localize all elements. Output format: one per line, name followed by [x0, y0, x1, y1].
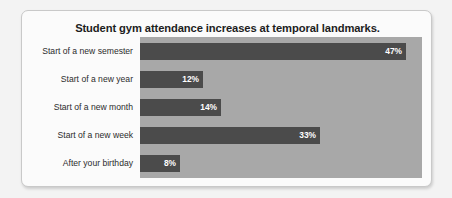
category-label: After your birthday	[33, 155, 133, 172]
category-label: Start of a new year	[33, 71, 133, 88]
category-label: Start of a new week	[33, 127, 133, 144]
bar[interactable]: 14%	[140, 99, 221, 116]
bar[interactable]: 33%	[140, 127, 320, 144]
bar-row: Start of a new year 12%	[33, 71, 422, 88]
bar-value-label: 33%	[299, 127, 316, 144]
bar-value-label: 47%	[385, 43, 402, 60]
category-label: Start of a new semester	[33, 43, 133, 60]
bar-value-label: 14%	[200, 99, 217, 116]
bar-value-label: 12%	[182, 71, 199, 88]
chart-plot-wrapper: Start of a new semester 47% Start of a n…	[33, 37, 422, 178]
bar-value-label: 8%	[164, 155, 176, 172]
bar-row: Start of a new semester 47%	[33, 43, 422, 60]
bar[interactable]: 47%	[140, 43, 406, 60]
bar[interactable]: 8%	[140, 155, 180, 172]
chart-card: Student gym attendance increases at temp…	[21, 10, 432, 187]
bar-row: Start of a new week 33%	[33, 127, 422, 144]
bar[interactable]: 12%	[140, 71, 203, 88]
bar-row: After your birthday 8%	[33, 155, 422, 172]
bar-row: Start of a new month 14%	[33, 99, 422, 116]
chart-title: Student gym attendance increases at temp…	[22, 22, 433, 34]
category-label: Start of a new month	[33, 99, 133, 116]
screenshot-root: Student gym attendance increases at temp…	[0, 0, 452, 198]
